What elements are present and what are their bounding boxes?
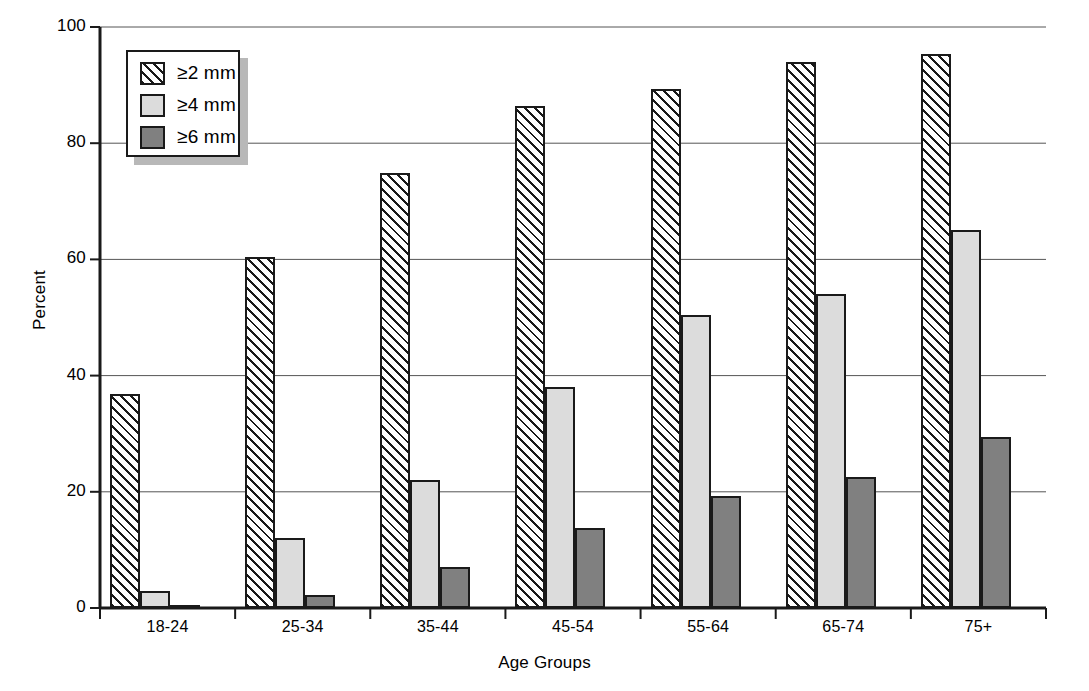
bar (140, 591, 170, 608)
bar (170, 605, 200, 609)
y-axis-tick-label: 100 (24, 16, 86, 36)
legend-item-1: ≥4 mm (140, 92, 236, 118)
x-axis-tick-label: 25-34 (235, 618, 370, 636)
legend-item-0: ≥2 mm (140, 60, 236, 86)
legend-item-2: ≥6 mm (140, 124, 236, 150)
x-axis-tick-label: 65-74 (776, 618, 911, 636)
x-axis-tick-label: 75+ (911, 618, 1046, 636)
bar (410, 480, 440, 608)
y-axis-title: Percent (30, 230, 50, 370)
bar (380, 173, 410, 608)
bar (245, 257, 275, 608)
bar (515, 106, 545, 608)
legend-label-1: ≥4 mm (177, 94, 236, 116)
y-axis-tick-label: 0 (24, 597, 86, 617)
legend-swatch-dark-icon (140, 126, 165, 149)
legend-swatch-light-icon (140, 94, 165, 117)
bar (651, 89, 681, 608)
bar (951, 230, 981, 608)
bar (305, 595, 335, 608)
x-axis-title: Age Groups (0, 653, 1089, 673)
x-axis-tick-label: 45-54 (505, 618, 640, 636)
legend-label-2: ≥6 mm (177, 126, 236, 148)
legend-label-0: ≥2 mm (177, 62, 236, 84)
x-axis-tick-label: 35-44 (370, 618, 505, 636)
bar (575, 528, 605, 608)
bar (921, 54, 951, 608)
bar (981, 437, 1011, 608)
legend-box: ≥2 mm ≥4 mm ≥6 mm (126, 50, 240, 157)
bar (110, 394, 140, 608)
x-axis-tick-label: 55-64 (641, 618, 776, 636)
bar (440, 567, 470, 608)
legend-swatch-hatch-icon (140, 62, 165, 85)
y-axis-tick-label: 20 (24, 481, 86, 501)
bar (545, 387, 575, 608)
bar (711, 496, 741, 608)
bar (786, 62, 816, 608)
bar (816, 294, 846, 608)
bar-chart: 020406080100 18-2425-3435-4445-5455-6465… (0, 0, 1089, 691)
x-axis-tick-label: 18-24 (100, 618, 235, 636)
bar (846, 477, 876, 608)
bar (275, 538, 305, 608)
bar (681, 315, 711, 608)
y-axis-tick-label: 80 (24, 132, 86, 152)
